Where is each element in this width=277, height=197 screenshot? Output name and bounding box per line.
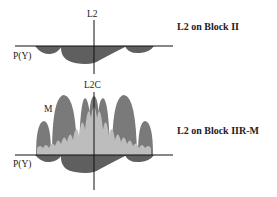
block-iir-m-title: L2 on Block IIR-M: [177, 125, 259, 136]
l2c-axis-label: L2C: [84, 80, 101, 90]
py-label-lower: P(Y): [13, 159, 31, 169]
block-ii-title: L2 on Block II: [177, 21, 239, 32]
block-iir-m-diagram: [15, 92, 173, 190]
block-ii-diagram: [15, 20, 173, 74]
py-label-upper: P(Y): [13, 51, 31, 61]
m-code-label: M: [44, 104, 52, 114]
l2-axis-label: L2: [87, 9, 98, 19]
